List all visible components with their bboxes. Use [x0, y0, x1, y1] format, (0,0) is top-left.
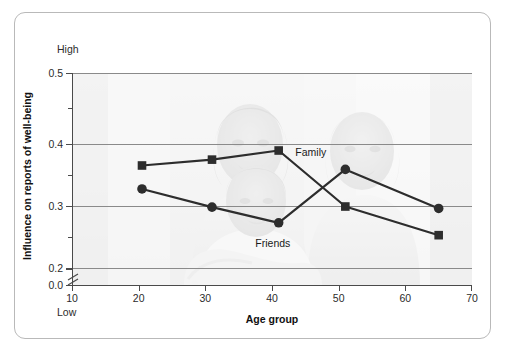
data-point-family-4 — [434, 231, 443, 240]
data-point-friends-2 — [274, 218, 284, 228]
y-tick-label-0-3: 0.3 — [48, 200, 63, 212]
y-tick-label-0-0: 0.0 — [48, 279, 63, 291]
y-tick-label-0-4: 0.4 — [48, 138, 63, 150]
chart-figure: High Low Influence on reports of well-be… — [14, 12, 491, 339]
x-tick-40 — [272, 285, 273, 291]
series-label-family: Family — [295, 146, 326, 158]
x-tick-70 — [471, 285, 472, 291]
series-label-friends: Friends — [255, 237, 290, 249]
plot-area: 0.5 0.4 0.3 0.2 0.0 10 20 30 40 50 60 70… — [72, 73, 472, 285]
x-tick-label-40: 40 — [266, 292, 278, 304]
data-point-friends-3 — [341, 165, 351, 175]
data-series-layer — [72, 73, 472, 285]
data-point-family-2 — [274, 146, 283, 155]
y-axis-title: Influence on reports of well-being — [21, 92, 33, 260]
series-line-friends — [142, 169, 439, 222]
x-tick-label-60: 60 — [399, 292, 411, 304]
x-tick-20 — [139, 285, 140, 291]
data-point-family-3 — [341, 202, 350, 211]
data-point-friends-4 — [434, 204, 444, 214]
x-axis-title: Age group — [246, 313, 299, 325]
y-axis-low-label: Low — [57, 306, 76, 318]
x-tick-50 — [339, 285, 340, 291]
x-tick-label-30: 30 — [199, 292, 211, 304]
data-point-family-1 — [208, 155, 217, 164]
x-tick-10 — [72, 285, 73, 291]
x-tick-30 — [205, 285, 206, 291]
y-axis-high-label: High — [57, 43, 79, 55]
x-tick-label-70: 70 — [466, 292, 478, 304]
x-tick-60 — [405, 285, 406, 291]
data-point-friends-0 — [137, 184, 147, 194]
series-line-family — [142, 151, 439, 236]
x-tick-label-10: 10 — [66, 292, 78, 304]
x-tick-label-50: 50 — [333, 292, 345, 304]
data-point-friends-1 — [207, 202, 217, 212]
y-tick-label-0-5: 0.5 — [48, 67, 63, 79]
y-tick-label-0-2: 0.2 — [48, 262, 63, 274]
data-point-family-0 — [138, 161, 147, 170]
x-tick-label-20: 20 — [133, 292, 145, 304]
